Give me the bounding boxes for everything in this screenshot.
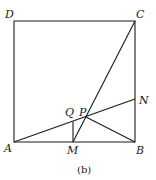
figure-caption: (b) bbox=[77, 164, 91, 175]
label-q: Q bbox=[65, 106, 74, 119]
label-p: P bbox=[78, 106, 87, 119]
label-n: N bbox=[138, 94, 149, 107]
square-abcd bbox=[14, 21, 135, 142]
label-b: B bbox=[135, 144, 144, 157]
label-a: A bbox=[3, 142, 12, 155]
segment-cm bbox=[73, 21, 135, 142]
label-c: C bbox=[136, 8, 145, 21]
label-d: D bbox=[4, 8, 14, 21]
geometry-diagram: D C N Q P A M B (b) bbox=[0, 0, 156, 180]
segment-an bbox=[14, 99, 135, 142]
label-m: M bbox=[66, 144, 79, 157]
segment-pb bbox=[86, 117, 135, 142]
